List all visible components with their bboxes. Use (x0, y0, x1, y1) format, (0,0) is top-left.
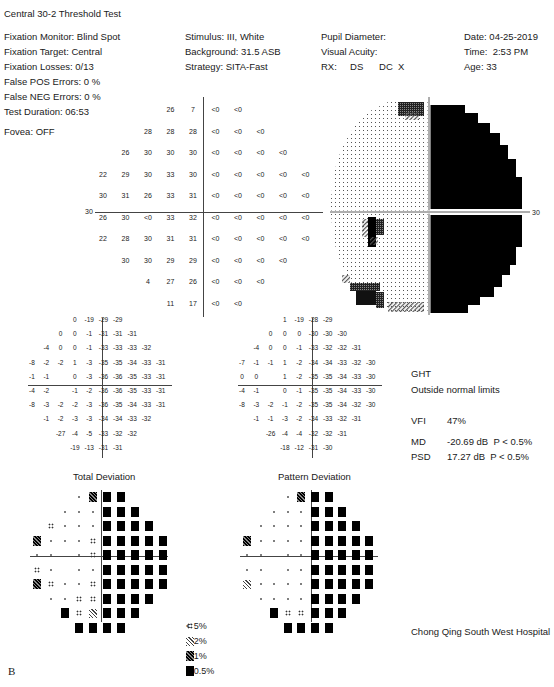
black-square-symbol-icon (131, 565, 139, 575)
stimulus: Stimulus: III, White (185, 31, 264, 42)
normal-dot-icon (75, 521, 83, 531)
normal-dot-icon (243, 565, 251, 575)
pattern-deviation-title: Pattern Deviation (278, 471, 351, 482)
panel-label: B (8, 666, 15, 677)
grid-value: 17 (185, 300, 201, 307)
normal-dot-icon (297, 507, 305, 517)
grid-value: -30 (363, 401, 379, 408)
black-square-symbol-icon (311, 579, 319, 589)
axis-label-30-left: 30 (85, 206, 93, 217)
grid-value: 30 (163, 149, 179, 156)
normal-dot-icon (75, 550, 83, 560)
grid-value: <0 (230, 171, 246, 178)
black-square-symbol-icon (131, 550, 139, 560)
grid-value: 29 (163, 257, 179, 264)
black-square-symbol-icon (352, 565, 360, 575)
normal-dot-icon (297, 521, 305, 531)
dots-symbol-icon (186, 621, 194, 631)
dark-hatch-symbol-icon (186, 651, 194, 661)
normal-dot-icon (284, 565, 292, 575)
normal-dot-icon (297, 536, 305, 546)
black-square-symbol-icon (131, 507, 139, 517)
grayscale-map (330, 97, 550, 315)
grayscale-plot: 30 (330, 97, 550, 315)
grid-value: 28 (140, 128, 156, 135)
grid-value: 26 (95, 214, 111, 221)
grid-value: <0 (275, 235, 291, 242)
test-title: Central 30-2 Threshold Test (4, 8, 121, 19)
psd-value: 17.27 dB P < 0.5% (447, 451, 529, 462)
black-square-symbol-icon (103, 521, 111, 531)
black-square-symbol-icon (338, 507, 346, 517)
grid-value: <0 (208, 214, 224, 221)
grid-value: -2 (38, 387, 54, 394)
grid-value: 30 (140, 235, 156, 242)
vfi-value: 47% (447, 415, 466, 426)
normal-dot-icon (89, 507, 97, 517)
patient-age: Age: 33 (464, 61, 497, 72)
grid-value: <0 (230, 106, 246, 113)
grid-value: <0 (208, 128, 224, 135)
grid-value: -29 (110, 316, 126, 323)
ght-value: Outside normal limits (411, 384, 500, 395)
legend-item-2: < 2% (186, 636, 207, 646)
black-square-symbol-icon (352, 579, 360, 589)
grid-value: 33 (163, 214, 179, 221)
grid-value: <0 (208, 149, 224, 156)
black-square-symbol-icon (117, 623, 125, 633)
black-square-symbol-icon (145, 594, 153, 604)
dots-symbol-icon (75, 608, 83, 618)
dots-symbol-icon (297, 608, 305, 618)
grid-value: -31 (153, 373, 169, 380)
pattern-deviation-values: 1-19-28-29000-30-30-30-400-1-33-32-32-31… (238, 318, 388, 458)
black-square-symbol-icon (325, 536, 333, 546)
black-square-symbol-icon (284, 623, 292, 633)
normal-dot-icon (284, 521, 292, 531)
grid-value: 28 (163, 128, 179, 135)
normal-dot-icon (47, 594, 55, 604)
black-square-symbol-icon (131, 594, 139, 604)
grid-value: <0 (208, 300, 224, 307)
normal-dot-icon (270, 521, 278, 531)
black-square-symbol-icon (325, 579, 333, 589)
grid-value: -31 (348, 415, 364, 422)
total-deviation-values: 0-19-29-2900-1-31-31-31-400-1-33-33-33-3… (28, 318, 178, 458)
grid-value: 7 (185, 106, 201, 113)
black-square-symbol-icon (338, 521, 346, 531)
grid-value: 30 (118, 214, 134, 221)
normal-dot-icon (75, 536, 83, 546)
grid-value: <0 (298, 235, 314, 242)
strategy: Strategy: SITA-Fast (185, 61, 268, 72)
black-square-symbol-icon (311, 521, 319, 531)
normal-dot-icon (47, 565, 55, 575)
black-square-symbol-icon (311, 550, 319, 560)
black-square-symbol-icon (338, 565, 346, 575)
black-square-symbol-icon (311, 608, 319, 618)
grid-value: -1 (248, 387, 264, 394)
grid-value: 30 (118, 257, 134, 264)
grid-value: 33 (163, 171, 179, 178)
normal-dot-icon (257, 521, 265, 531)
horizontal-axis (28, 385, 172, 386)
black-square-symbol-icon (131, 608, 139, 618)
normal-dot-icon (33, 550, 41, 560)
normal-dot-icon (297, 565, 305, 575)
dots-symbol-icon (47, 579, 55, 589)
normal-dot-icon (75, 565, 83, 575)
normal-dot-icon (257, 550, 265, 560)
black-square-symbol-icon (103, 594, 111, 604)
black-square-symbol-icon (159, 565, 167, 575)
grid-value: 22 (95, 171, 111, 178)
normal-dot-icon (257, 594, 265, 604)
grid-value: 26 (140, 192, 156, 199)
grid-value: <0 (253, 257, 269, 264)
grid-value: 32 (185, 214, 201, 221)
black-square-symbol-icon (145, 579, 153, 589)
vfi-label: VFI (411, 415, 426, 426)
pattern-deviation-probability-plot (240, 490, 380, 630)
normal-dot-icon (243, 550, 251, 560)
black-square-symbol-icon (352, 536, 360, 546)
md-value: -20.69 dB P < 0.5% (447, 436, 532, 447)
black-square-symbol-icon (117, 594, 125, 604)
grid-value: -1 (38, 373, 54, 380)
